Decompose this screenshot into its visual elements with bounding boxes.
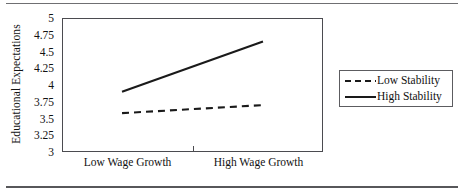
x-tick-label-low-wage-growth: Low Wage Growth [62,156,193,168]
y-tick-label-3: 3 [2,147,54,159]
y-tick-label-4: 4 [2,80,54,92]
dashed-line-swatch [344,75,377,87]
series-line-high-stability [122,41,263,91]
y-tick-label-4-75: 4.75 [2,30,54,42]
x-tick-label-high-wage-growth: High Wage Growth [193,156,324,168]
figure-container: Educational Expectations 5 4.75 4.5 4.25… [0,0,464,196]
series-line-low-stability [122,105,263,113]
x-tick-mark-center [193,146,194,152]
legend-item-high-stability: High Stability [344,89,449,105]
y-tick-label-3-75: 3.75 [2,97,54,109]
page-rule-top [6,3,458,4]
page-rule-bottom [6,186,458,188]
y-tick-label-3-5: 3.5 [2,114,54,126]
data-lines [62,18,323,152]
solid-line-swatch [344,91,377,103]
y-tick-label-5: 5 [2,13,54,25]
y-tick-label-4-25: 4.25 [2,63,54,75]
y-tick-label-4-5: 4.5 [2,47,54,59]
legend-item-low-stability: Low Stability [344,73,449,89]
legend-label-high-stability: High Stability [377,91,442,103]
y-tick-label-3-25: 3.25 [2,130,54,142]
legend-label-low-stability: Low Stability [377,75,440,87]
legend: Low Stability High Stability [339,70,453,107]
